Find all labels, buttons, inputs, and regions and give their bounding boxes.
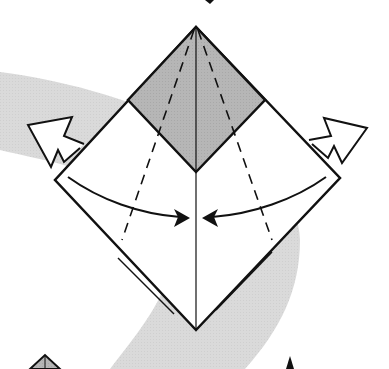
- next-step-preview-right: [286, 356, 294, 369]
- origami-diagram: [0, 0, 389, 369]
- previous-step-fragment: [205, 0, 214, 4]
